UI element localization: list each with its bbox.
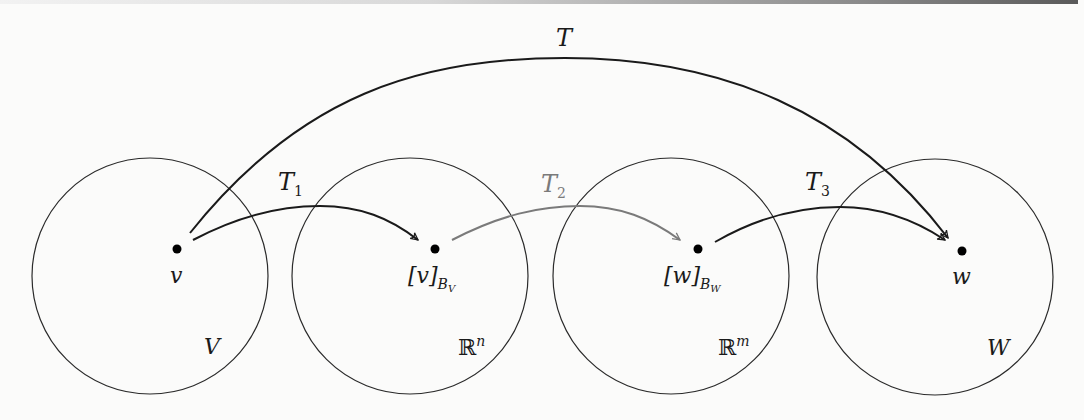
space-W (817, 159, 1053, 395)
arrow-T3 (715, 207, 945, 242)
label-w: w (952, 264, 971, 289)
label-T2: T2 (541, 170, 566, 201)
label-space-Rm: ℝm (718, 333, 750, 360)
label-space-Rn: ℝn (458, 333, 485, 360)
label-T1: T1 (278, 168, 303, 199)
point-v (173, 245, 182, 254)
label-space-W: W (987, 335, 1012, 360)
circle-V (32, 158, 268, 394)
linear-map-diagram: T T1 T2 T3 v [v]BV [w]BW w V ℝn ℝm W (0, 0, 1084, 420)
arrow-T (190, 58, 948, 238)
label-w-coords: [w]BW (664, 263, 721, 294)
label-space-V: V (204, 334, 222, 359)
arrow-T1 (193, 206, 418, 240)
point-v-coords (431, 245, 440, 254)
label-v: v (170, 263, 183, 288)
point-w-coords (694, 245, 703, 254)
label-T3: T3 (805, 168, 830, 199)
point-w (958, 247, 967, 256)
circle-W (817, 159, 1053, 395)
label-v-coords: [v]BV (408, 263, 457, 294)
label-T: T (556, 24, 574, 52)
space-V (32, 158, 268, 394)
